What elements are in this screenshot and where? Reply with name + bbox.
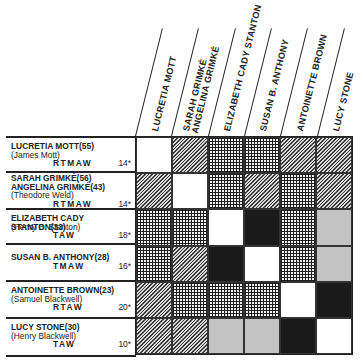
matrix-cell-dots	[244, 318, 280, 354]
matrix-cell-grid	[280, 246, 316, 282]
matrix-cell-grid	[208, 282, 244, 318]
matrix-cell-hatch	[172, 137, 208, 173]
matrix-cell-hatch	[136, 318, 172, 354]
matrix-cell-white	[244, 246, 280, 282]
matrix-cell-hatch	[244, 173, 280, 209]
matrix-cell-grid	[136, 209, 172, 245]
matrix-cell-grid	[136, 246, 172, 282]
matrix-cell-hatch	[316, 137, 352, 173]
matrix-cell-dots	[208, 318, 244, 354]
matrix-cell-hatch	[172, 318, 208, 354]
row-label: LUCRETIA MOTT(55)(James Mott)RTMAW14*	[11, 139, 135, 170]
matrix-cell-black	[316, 282, 352, 318]
matrix-cell-white	[316, 318, 352, 354]
matrix-cell-hatch	[172, 246, 208, 282]
column-header-label: ANTOINETTE BROWN	[296, 33, 329, 132]
column-header-label: ELIZABETH CADY STANTON	[223, 4, 263, 132]
matrix-cell-white	[172, 173, 208, 209]
matrix-cell-white	[280, 282, 316, 318]
matrix-cell-dots	[316, 209, 352, 245]
column-header-text: LUCY STONE	[332, 71, 355, 132]
row-number: 16*	[118, 262, 131, 271]
matrix-cell-black	[208, 246, 244, 282]
row-initials: TAW	[53, 231, 75, 240]
matrix-cell-white	[208, 209, 244, 245]
matrix-cell-grid	[244, 137, 280, 173]
row-label: SUSAN B. ANTHONY(28)TMAW16*	[11, 246, 135, 279]
matrix-cell-grid	[280, 173, 316, 209]
row-label: ELIZABETH CADY STANTON(33)(Henry B. Stan…	[11, 211, 135, 242]
row-label: SARAH GRIMKÉ(56)ANGELINA GRIMKÉ(43)(Theo…	[11, 174, 135, 207]
column-header-label: LUCY STONE	[332, 71, 355, 132]
matrix-cell-grid	[172, 282, 208, 318]
column-header-text: ELIZABETH CADY STANTON	[223, 4, 263, 132]
matrix-cell-hatch	[136, 282, 172, 318]
row-number: 14*	[118, 200, 131, 209]
row-separator	[6, 280, 136, 282]
row-separator	[6, 355, 136, 357]
row-separator	[6, 243, 136, 245]
matrix-cell-grid	[280, 209, 316, 245]
row-initials: TAW	[53, 340, 75, 349]
column-header-text: ANTOINETTE BROWN	[296, 33, 329, 132]
matrix-cell-grid	[208, 173, 244, 209]
matrix-cell-dots	[316, 246, 352, 282]
row-initials: RTMAW	[53, 200, 92, 209]
column-header-label: SARAH GRIMKÉANGELINA GRIMKÉ	[182, 43, 221, 134]
matrix-cell-grid	[208, 137, 244, 173]
matrix-cell-grid	[172, 209, 208, 245]
matrix-cell-black	[280, 318, 316, 354]
matrix-cell-grid	[244, 282, 280, 318]
matrix-cell-hatch	[280, 137, 316, 173]
row-number: 10*	[118, 340, 131, 349]
row-label: LUCY STONE(30)(Henry Blackwell)TAW10*	[11, 320, 135, 354]
row-label: ANTOINETTE BROWN(23)(Samuel Blackwell)RT…	[11, 283, 135, 316]
matrix-cell-hatch	[136, 173, 172, 209]
matrix-cell-white	[136, 137, 172, 173]
matrix-grid	[135, 136, 353, 355]
row-initials: RTMAW	[53, 159, 92, 168]
row-number: 14*	[118, 159, 131, 168]
row-initials: RTAW	[53, 303, 83, 312]
row-number: 20*	[118, 303, 131, 312]
row-number: 18*	[118, 231, 131, 240]
matrix-cell-hatch	[316, 173, 352, 209]
matrix-cell-black	[244, 209, 280, 245]
row-initials: TMAW	[53, 262, 85, 271]
row-separator	[6, 317, 136, 319]
row-separator	[6, 136, 136, 138]
